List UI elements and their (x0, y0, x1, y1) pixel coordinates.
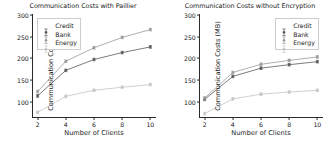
data-point-marker (231, 98, 234, 101)
y-tick-mark (197, 101, 199, 102)
legend-marker-icon (40, 38, 52, 47)
y-tick-mark (197, 14, 199, 15)
data-point-marker (288, 59, 291, 62)
data-point-marker (64, 60, 67, 63)
legend-marker-icon (40, 30, 52, 39)
x-tick-label: 2 (203, 121, 207, 128)
x-tick-label: 10 (313, 121, 321, 128)
legend-label: Bank (55, 31, 71, 38)
data-point-marker (260, 63, 263, 66)
x-axis-label-right: Number of Clients (231, 129, 291, 137)
y-tick-label: 150 (17, 76, 29, 83)
legend-entry-energy: Energy (278, 38, 315, 47)
y-tick-mark (30, 14, 32, 15)
y-tick-mark (197, 58, 199, 59)
y-tick-label: 200 (184, 55, 196, 62)
data-point-marker (149, 83, 152, 86)
x-tick-mark (317, 118, 318, 120)
y-tick-label: 250 (17, 33, 29, 40)
figure-canvas: Communication Costs with Paillier Commun… (0, 0, 333, 155)
legend-label: Energy (55, 39, 77, 46)
x-tick-label: 2 (36, 121, 40, 128)
data-point-marker (231, 75, 234, 78)
x-axis-label-left: Number of Clients (64, 129, 124, 137)
x-tick-mark (65, 118, 66, 120)
data-point-marker (149, 46, 152, 49)
data-point-marker (231, 71, 234, 74)
y-tick-label: 250 (184, 33, 196, 40)
x-tick-label: 8 (287, 121, 291, 128)
x-tick-label: 8 (120, 121, 124, 128)
x-tick-mark (232, 118, 233, 120)
y-tick-label: 200 (17, 55, 29, 62)
data-point-marker (36, 95, 39, 98)
x-tick-mark (37, 118, 38, 120)
data-point-marker (316, 56, 319, 59)
legend-right: CreditBankEnergy (275, 18, 319, 50)
data-point-marker (288, 63, 291, 66)
y-tick-label: 300 (184, 11, 196, 18)
legend-left: CreditBankEnergy (37, 18, 81, 50)
data-point-marker (93, 46, 96, 49)
data-point-marker (316, 60, 319, 63)
data-point-marker (203, 97, 206, 100)
data-point-marker (121, 36, 124, 39)
legend-entry-credit: Credit (40, 21, 77, 30)
data-point-marker (149, 28, 152, 31)
data-point-marker (121, 86, 124, 89)
legend-marker-icon (40, 21, 52, 30)
y-tick-mark (197, 79, 199, 80)
y-tick-mark (30, 101, 32, 102)
y-tick-label: 100 (184, 98, 196, 105)
data-point-marker (36, 90, 39, 93)
legend-label: Credit (55, 22, 74, 29)
data-point-marker (64, 95, 67, 98)
data-point-marker (203, 112, 206, 115)
y-axis-label-right: Communication Costs (MB) (213, 21, 221, 111)
data-point-marker (316, 89, 319, 92)
x-tick-label: 4 (231, 121, 235, 128)
chart-panel-right: Communication Costs without Encryption C… (167, 0, 333, 155)
data-point-marker (288, 91, 291, 94)
legend-marker-icon (278, 38, 290, 47)
legend-entry-bank: Bank (40, 30, 77, 39)
y-tick-mark (30, 58, 32, 59)
x-tick-mark (261, 118, 262, 120)
legend-marker-icon (278, 30, 290, 39)
legend-entry-credit: Credit (278, 21, 315, 30)
x-tick-label: 4 (64, 121, 68, 128)
chart-panel-left: Communication Costs with Paillier Commun… (0, 0, 166, 155)
y-tick-label: 100 (17, 98, 29, 105)
chart-title-right: Communication Costs without Encryption (167, 2, 333, 10)
legend-label: Credit (293, 22, 312, 29)
x-tick-mark (289, 118, 290, 120)
x-tick-label: 10 (146, 121, 154, 128)
x-tick-mark (122, 118, 123, 120)
data-point-marker (121, 51, 124, 54)
legend-entry-bank: Bank (278, 30, 315, 39)
x-tick-mark (94, 118, 95, 120)
y-tick-label: 300 (17, 11, 29, 18)
y-tick-mark (30, 36, 32, 37)
data-point-marker (93, 58, 96, 61)
data-point-marker (93, 89, 96, 92)
x-tick-mark (204, 118, 205, 120)
data-point-marker (64, 69, 67, 72)
y-tick-mark (30, 79, 32, 80)
legend-entry-energy: Energy (40, 38, 77, 47)
data-point-marker (260, 93, 263, 96)
y-tick-label: 150 (184, 76, 196, 83)
x-tick-label: 6 (92, 121, 96, 128)
x-tick-mark (150, 118, 151, 120)
data-point-marker (260, 67, 263, 70)
data-point-marker (36, 111, 39, 114)
legend-label: Bank (293, 31, 309, 38)
legend-marker-icon (278, 21, 290, 30)
legend-label: Energy (293, 39, 315, 46)
y-tick-mark (197, 36, 199, 37)
x-tick-label: 6 (259, 121, 263, 128)
chart-title-left: Communication Costs with Paillier (0, 2, 166, 10)
